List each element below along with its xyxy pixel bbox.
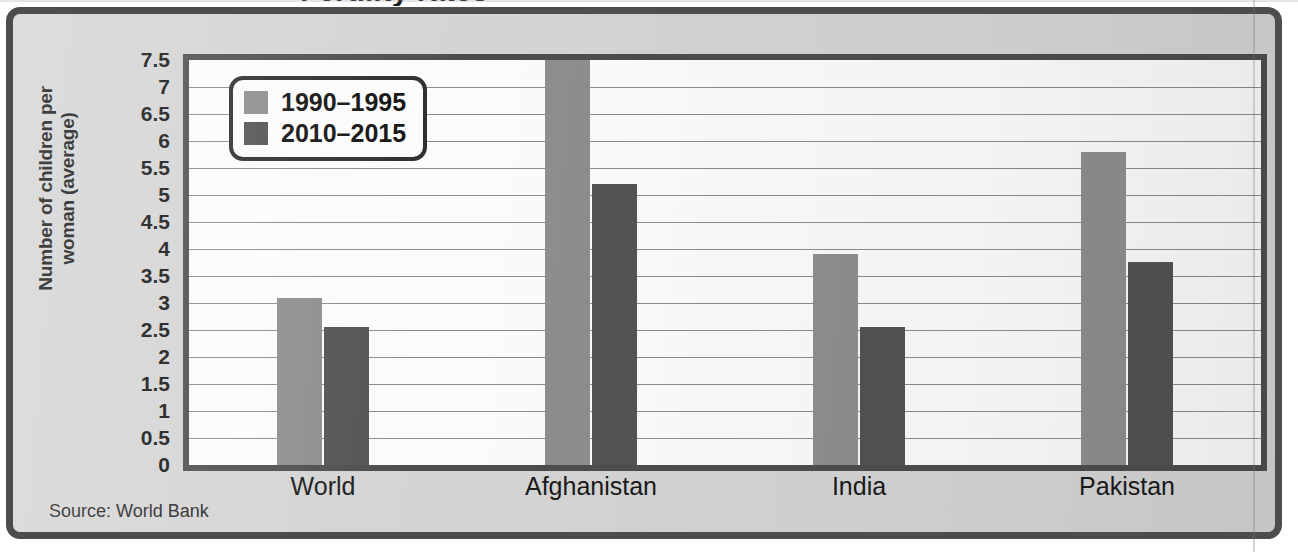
y-tick-label: 5.5 [108, 156, 170, 180]
legend-item-0: 1990–1995 [244, 87, 406, 118]
x-category-label-afghanistan: Afghanistan [525, 472, 657, 501]
legend-swatch-icon-1 [244, 122, 268, 145]
y-tick-label: 7.5 [108, 48, 170, 72]
x-category-label-pakistan: Pakistan [1079, 472, 1175, 501]
legend-swatch-icon-0 [244, 91, 268, 114]
bar-world-series-1 [324, 327, 369, 465]
y-tick-label: 6.5 [108, 102, 170, 126]
bar-world-series-0 [277, 298, 322, 465]
y-axis-title-line2: woman (average) [57, 38, 79, 338]
chart-panel: Number of children per woman (average) 0… [6, 7, 1282, 539]
bar-india-series-1 [860, 327, 905, 465]
y-axis-title-line1: Number of children per [35, 38, 57, 338]
scan-artifact-top [0, 0, 1298, 2]
bar-afghanistan-series-0 [545, 54, 590, 465]
x-axis-category-labels: WorldAfghanistanIndiaPakistan [183, 472, 1267, 512]
y-tick-label: 7 [108, 75, 170, 99]
bar-pakistan-series-1 [1128, 262, 1173, 465]
bar-afghanistan-series-1 [592, 184, 637, 465]
y-tick-label: 3 [108, 291, 170, 315]
y-tick-label: 1.5 [108, 372, 170, 396]
y-tick-label: 0 [108, 453, 170, 477]
chart-screenshot: Fertility rates Number of children per w… [0, 0, 1298, 552]
y-tick-label: 4.5 [108, 210, 170, 234]
legend-label-0: 1990–1995 [281, 88, 406, 117]
scan-artifact-right [1253, 0, 1255, 552]
y-tick-label: 1 [108, 399, 170, 423]
legend-label-1: 2010–2015 [281, 119, 406, 148]
bar-pakistan-series-0 [1081, 152, 1126, 465]
bar-india-series-0 [813, 254, 858, 465]
y-tick-label: 2.5 [108, 318, 170, 342]
y-tick-label: 4 [108, 237, 170, 261]
y-tick-label: 6 [108, 129, 170, 153]
x-category-label-india: India [832, 472, 886, 501]
y-tick-label: 0.5 [108, 426, 170, 450]
source-note: Source: World Bank [49, 501, 209, 522]
x-category-label-world: World [291, 472, 356, 501]
y-axis-tick-labels: 00.511.522.533.544.555.566.577.5 [108, 54, 170, 474]
y-tick-label: 2 [108, 345, 170, 369]
legend: 1990–1995 2010–2015 [229, 76, 427, 161]
y-tick-label: 3.5 [108, 264, 170, 288]
y-tick-label: 5 [108, 183, 170, 207]
y-axis-title: Number of children per woman (average) [35, 38, 80, 338]
legend-item-1: 2010–2015 [244, 118, 406, 149]
